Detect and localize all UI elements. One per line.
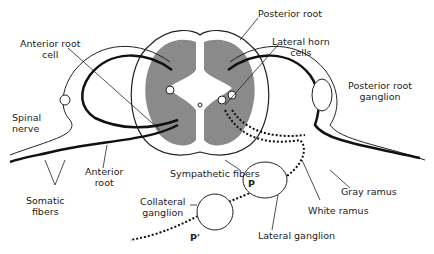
label-gray-ramus: Gray ramus xyxy=(341,186,397,197)
label-posterior-root-ganglion: Posterior root ganglion xyxy=(348,80,412,102)
label-anterior-root: Anterior root xyxy=(85,166,123,188)
label-line: cell xyxy=(20,49,80,60)
label-line: Collateral xyxy=(140,196,185,207)
label-line: Anterior root xyxy=(20,38,80,49)
posterior-root-ganglion xyxy=(312,79,332,111)
label-spinal-nerve: Spinal nerve xyxy=(12,112,41,134)
label-line: fibers xyxy=(26,206,65,217)
label-line: cells xyxy=(272,47,330,58)
label-line: nerve xyxy=(12,123,41,134)
collateral-ganglion-shape xyxy=(197,194,233,230)
diagram-canvas: Anterior root cell Posterior root Latera… xyxy=(0,0,434,254)
label-somatic-fibers: Somatic fibers xyxy=(26,195,65,217)
label-line: ganglion xyxy=(140,207,185,218)
label-sympathetic-fibers: Sympathetic fibers xyxy=(170,168,260,179)
label-p: P xyxy=(248,178,255,189)
label-line: ganglion xyxy=(348,91,412,102)
label-line: root xyxy=(85,177,123,188)
label-line: Somatic xyxy=(26,195,65,206)
label-collateral-ganglion: Collateral ganglion xyxy=(140,196,185,218)
label-p-prime: P' xyxy=(190,232,200,243)
label-white-ramus: White ramus xyxy=(308,205,369,216)
label-line: Anterior xyxy=(85,166,123,177)
label-posterior-root: Posterior root xyxy=(258,8,322,19)
label-anterior-root-cell: Anterior root cell xyxy=(20,38,80,60)
label-line: Posterior root xyxy=(348,80,412,91)
label-line: Spinal xyxy=(12,112,41,123)
label-line: Lateral horn xyxy=(272,36,330,47)
label-lateral-horn-cells: Lateral horn cells xyxy=(272,36,330,58)
label-lateral-ganglion: Lateral ganglion xyxy=(258,230,335,241)
